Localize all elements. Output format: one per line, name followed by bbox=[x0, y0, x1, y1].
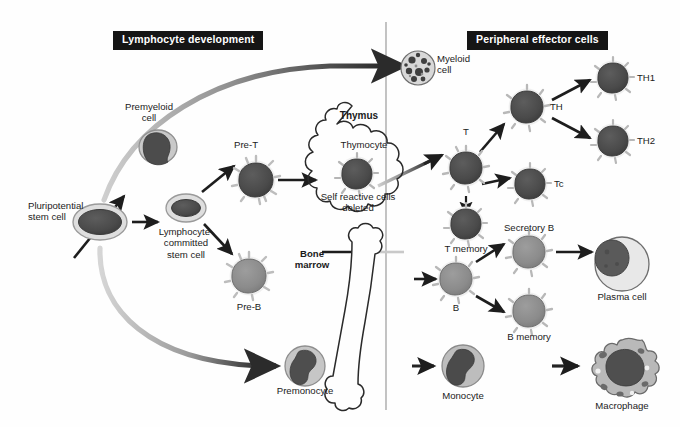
label-macrophage: Macrophage bbox=[595, 400, 648, 411]
label-premyeloid-cell: Premyeloid cell bbox=[125, 101, 173, 124]
cell-plasma-cell bbox=[595, 237, 649, 291]
label-tc: Tc bbox=[554, 178, 564, 189]
cell-tc-cell bbox=[508, 163, 551, 206]
cell-b-cell bbox=[433, 257, 479, 303]
arrow-th-to-th1 bbox=[552, 80, 590, 100]
label-premonocyte: Premonocyte bbox=[277, 385, 334, 396]
label-pluripotential-stem-cell: Pluripotential stem cell bbox=[28, 200, 83, 223]
cell-th2-cell bbox=[591, 120, 634, 163]
label-b-cell: B bbox=[453, 302, 459, 313]
cell-myeloid-cell bbox=[401, 51, 435, 85]
label-plasma-cell: Plasma cell bbox=[597, 291, 646, 302]
arrow-t-to-th bbox=[480, 124, 504, 152]
label-t-cell: T bbox=[463, 126, 469, 137]
label-lymphocyte-committed-stem-cell: Lymphocyte- committed stem cell bbox=[159, 226, 214, 260]
arrow-b-to-bmemory bbox=[476, 296, 504, 312]
cell-th1-cell bbox=[591, 57, 634, 100]
label-self-reactive-cells-deleted: Self reactive cells deleted bbox=[321, 191, 396, 214]
cell-premyeloid-cell bbox=[139, 130, 177, 165]
cell-thymocyte bbox=[335, 153, 378, 196]
cell-th-cell bbox=[504, 85, 550, 131]
cell-pre-b-cell bbox=[225, 252, 273, 300]
label-thymocyte: Thymocyte bbox=[341, 139, 388, 150]
cell-monocyte bbox=[442, 345, 484, 387]
label-secretory-b: Secretory B bbox=[504, 222, 554, 233]
cell-t-memory-cell bbox=[444, 203, 487, 246]
label-t-memory: T memory bbox=[445, 243, 488, 254]
label-pre-t: Pre-T bbox=[234, 139, 258, 150]
label-th2: TH2 bbox=[637, 135, 655, 146]
arrow-th-to-th2 bbox=[552, 118, 590, 138]
label-b-memory: B memory bbox=[507, 331, 551, 342]
label-myeloid-cell: Myeloid cell bbox=[437, 53, 470, 76]
arrow-t-to-tc bbox=[482, 178, 510, 184]
label-pre-b: Pre-B bbox=[237, 301, 262, 312]
label-monocyte: Monocyte bbox=[442, 390, 484, 401]
label-bone-marrow: Bone marrow bbox=[295, 248, 330, 271]
arrow-thymus-to-t bbox=[378, 155, 442, 186]
banner-lymphocyte-development: Lymphocyte development bbox=[113, 31, 263, 50]
cell-b-memory-cell bbox=[506, 289, 552, 335]
cell-t-cell bbox=[443, 146, 489, 192]
cell-secretory-b-cell bbox=[506, 230, 552, 276]
cell-macrophage bbox=[592, 338, 659, 397]
cell-premonocyte bbox=[285, 346, 325, 386]
arrow-committed-to-pret bbox=[202, 166, 234, 192]
label-thymus: Thymus bbox=[340, 110, 378, 121]
cell-pre-t-cell bbox=[232, 156, 280, 204]
banner-peripheral-effector-cells: Peripheral effector cells bbox=[467, 31, 608, 50]
cell-lymphocyte-committed-stem-cell bbox=[166, 194, 206, 222]
label-th: TH bbox=[550, 101, 563, 112]
diagram-canvas: Lymphocyte development Peripheral effect… bbox=[0, 0, 680, 427]
label-th1: TH1 bbox=[637, 72, 655, 83]
